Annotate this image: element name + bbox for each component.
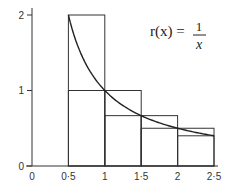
upper-rect <box>105 91 141 167</box>
function-label: r(x) = 1 x <box>150 19 206 52</box>
x-tick-label: 1 <box>102 171 108 182</box>
rectangles <box>68 15 214 166</box>
formula-denominator: x <box>195 37 203 52</box>
formula-numerator: 1 <box>196 19 203 34</box>
y-ticks: 012 <box>18 10 32 172</box>
chart: 012 00·511·522·5 r(x) = 1 x <box>0 0 229 193</box>
formula-lhs: r(x) = <box>150 23 185 40</box>
lower-rect <box>178 136 214 166</box>
x-ticks: 00·511·522·5 <box>29 171 221 182</box>
upper-rect <box>178 128 214 166</box>
lower-rect <box>105 116 141 166</box>
lower-rect <box>141 128 177 166</box>
y-tick-label: 0 <box>18 161 24 172</box>
x-tick-label: 1·5 <box>134 171 149 182</box>
x-tick-label: 0·5 <box>61 171 76 182</box>
lower-rect <box>68 91 104 167</box>
x-tick-label: 2·5 <box>207 171 222 182</box>
y-tick-label: 2 <box>18 10 24 21</box>
x-tick-label: 2 <box>175 171 181 182</box>
y-tick-label: 1 <box>18 85 24 96</box>
x-tick-label: 0 <box>29 171 35 182</box>
